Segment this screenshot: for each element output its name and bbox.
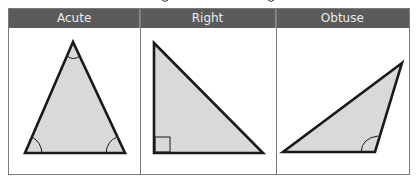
cut-off-caption-descenders xyxy=(162,0,274,2)
obtuse-triangle xyxy=(283,63,402,152)
right-triangle xyxy=(154,43,263,153)
triangles-figure xyxy=(0,0,418,183)
acute-triangle xyxy=(25,42,125,153)
